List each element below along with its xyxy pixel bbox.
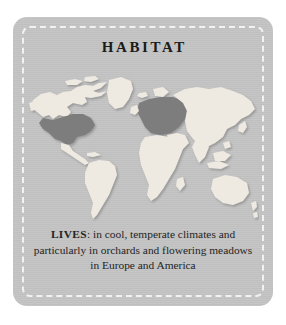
region-philippines	[223, 141, 231, 149]
region-europe-highlighted	[137, 97, 187, 135]
world-map	[27, 67, 259, 222]
region-iceland	[137, 92, 148, 98]
region-indonesia	[207, 161, 229, 169]
region-canada	[31, 82, 107, 119]
world-map-svg	[27, 67, 259, 222]
page-title: HABITAT	[13, 39, 273, 56]
region-southeast-asia	[213, 151, 231, 161]
region-caribbean	[87, 152, 101, 157]
region-south-america	[85, 160, 117, 219]
caption-lead: LIVES	[51, 228, 87, 240]
region-madagascar	[176, 177, 185, 191]
region-japan	[238, 121, 247, 133]
region-mexico-central-america	[61, 143, 89, 165]
caption: LIVES: in cool, temperate climates and p…	[29, 227, 257, 274]
region-india	[192, 141, 209, 163]
habitat-card: HABITAT	[13, 17, 273, 306]
region-united-states-highlighted	[39, 114, 95, 145]
region-new-zealand	[251, 201, 257, 211]
region-arctic-islands	[65, 79, 83, 85]
region-australia	[211, 175, 249, 205]
region-greenland	[107, 77, 133, 109]
region-new-zealand-2	[253, 212, 258, 218]
region-africa	[139, 135, 183, 201]
region-british-isles	[130, 105, 139, 115]
landmasses-group	[29, 76, 258, 219]
region-arctic-islands-2	[84, 76, 99, 82]
region-scandinavia	[153, 87, 169, 97]
